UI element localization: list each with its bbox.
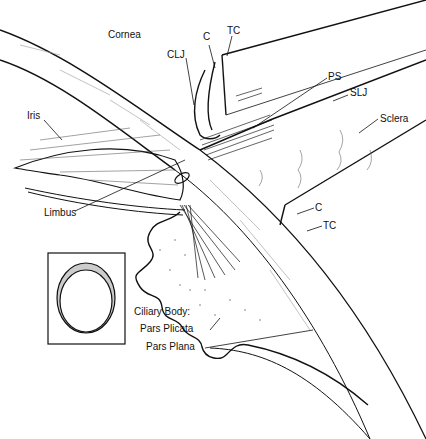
label-c-right: C — [315, 203, 322, 213]
sclera-edge — [200, 60, 426, 225]
label-tc-top: TC — [227, 26, 240, 36]
label-clj: CLJ — [167, 50, 185, 60]
label-ps: PS — [328, 72, 341, 82]
ps-hatching — [200, 88, 274, 160]
pars-plana-outline — [210, 348, 370, 439]
label-cornea: Cornea — [108, 30, 141, 40]
label-limbus: Limbus — [44, 208, 76, 218]
label-pars-plana: Pars Plana — [146, 342, 195, 352]
ciliary-fibers — [180, 205, 240, 280]
label-tc-right: TC — [323, 221, 336, 231]
label-pars-plicata: Pars Plicata — [140, 324, 193, 334]
sclera-vessels — [259, 130, 371, 188]
label-c-top: C — [203, 32, 210, 42]
label-iris: Iris — [27, 111, 40, 121]
label-ciliary-body: Ciliary Body: — [134, 307, 190, 317]
label-sclera: Sclera — [380, 114, 408, 124]
label-slj: SLJ — [350, 88, 367, 98]
iris-hatching — [20, 128, 178, 185]
inset-frontal-view — [48, 253, 125, 344]
anatomy-illustration — [0, 0, 426, 439]
